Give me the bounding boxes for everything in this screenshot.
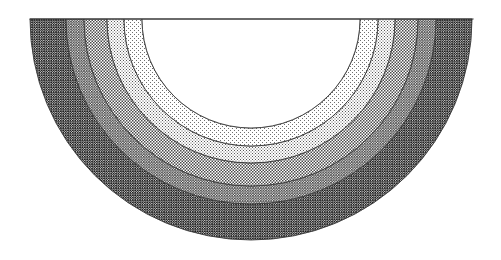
figure-canvas: Semicircular zoned cross-section bbox=[0, 0, 501, 260]
semicircle-diagram bbox=[0, 0, 501, 260]
